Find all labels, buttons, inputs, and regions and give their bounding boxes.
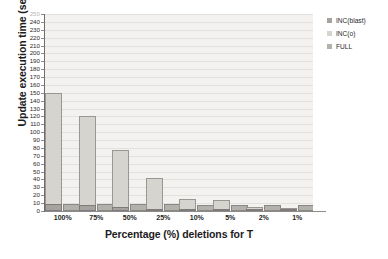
- y-axis-tick-label: 40: [17, 176, 40, 182]
- y-axis-tick-label: 70: [17, 153, 40, 159]
- legend-item: INC(blast): [327, 14, 387, 26]
- x-axis-tick-label: 1%: [274, 214, 321, 221]
- y-axis-tick-label: 30: [17, 184, 40, 190]
- bar-full: [130, 204, 147, 211]
- y-axis-tick-label: 240: [17, 19, 40, 25]
- bar-group: [45, 14, 80, 211]
- y-axis-tick-label: 60: [17, 161, 40, 167]
- y-axis-tick-label: 220: [17, 35, 40, 41]
- y-axis-tick-label: 90: [17, 137, 40, 143]
- y-axis-tick-label: 80: [17, 145, 40, 151]
- y-axis-tick-label: 250: [17, 11, 40, 17]
- y-axis-tick-label: 120: [17, 113, 40, 119]
- bar-group: [213, 14, 248, 211]
- x-axis-title: Percentage (%) deletions for T: [45, 228, 313, 240]
- chart-figure: Update execution time (sec) 250240230220…: [0, 0, 388, 259]
- y-axis-tick-label: 190: [17, 58, 40, 64]
- legend-swatch-icon: [327, 31, 332, 36]
- bar-group: [146, 14, 181, 211]
- x-axis-tick-labels: 100%75%50%25%10%5%2%1%: [45, 214, 313, 228]
- legend-item: FULL: [327, 40, 387, 52]
- y-axis-tick-label: 100: [17, 129, 40, 135]
- bar-group: [280, 14, 313, 211]
- x-axis-line: [45, 211, 326, 212]
- chart-legend: INC(blast)INC(o)FULL: [327, 14, 387, 53]
- legend-label: INC(blast): [336, 17, 366, 24]
- y-axis-tick-label: 50: [17, 169, 40, 175]
- bar-inc-o: [79, 116, 96, 211]
- y-axis-tick-labels: 2502402302202102001901801701601501401301…: [17, 14, 40, 211]
- bar-full: [164, 204, 181, 211]
- y-axis-tick-label: 110: [17, 121, 40, 127]
- y-axis-tick-label: 140: [17, 98, 40, 104]
- bar-inc-blast: [45, 204, 62, 211]
- y-axis-tick-label: 230: [17, 27, 40, 33]
- bar-full: [97, 204, 114, 211]
- legend-swatch-icon: [327, 18, 332, 23]
- bar-group: [112, 14, 147, 211]
- y-axis-tick-label: 0: [17, 208, 40, 214]
- y-axis-tick-label: 20: [17, 192, 40, 198]
- bar-inc-o: [112, 150, 129, 211]
- bar-inc-o: [45, 93, 62, 211]
- y-axis-tick-label: 10: [17, 200, 40, 206]
- legend-label: INC(o): [336, 30, 355, 37]
- y-axis-tick-label: 160: [17, 82, 40, 88]
- plot-area: [45, 14, 313, 211]
- y-axis-tick-label: 130: [17, 106, 40, 112]
- y-axis-tick-label: 210: [17, 43, 40, 49]
- legend-label: FULL: [336, 43, 352, 50]
- bar-group: [246, 14, 281, 211]
- y-axis-tick-label: 200: [17, 50, 40, 56]
- bar-group: [179, 14, 214, 211]
- legend-item: INC(o): [327, 27, 387, 39]
- bar-inc-o: [146, 178, 163, 211]
- legend-swatch-icon: [327, 44, 332, 49]
- y-axis-tick-label: 180: [17, 66, 40, 72]
- bar-group: [79, 14, 114, 211]
- y-axis-tick-label: 170: [17, 74, 40, 80]
- bar-full: [63, 204, 80, 211]
- y-axis-tick-label: 150: [17, 90, 40, 96]
